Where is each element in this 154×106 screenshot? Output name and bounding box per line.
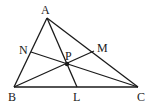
label-c: C <box>137 90 145 104</box>
label-p: P <box>65 49 72 63</box>
triangle-diagram: A B C L M N P <box>0 0 154 106</box>
label-a: A <box>41 3 50 17</box>
label-m: M <box>97 41 108 55</box>
cevian-al <box>47 18 77 87</box>
diagram-svg: A B C L M N P <box>0 0 154 106</box>
side-ca <box>47 18 138 87</box>
label-b: B <box>8 90 16 104</box>
label-l: L <box>73 90 80 104</box>
label-n: N <box>19 43 28 57</box>
cevian-cn <box>31 52 138 87</box>
